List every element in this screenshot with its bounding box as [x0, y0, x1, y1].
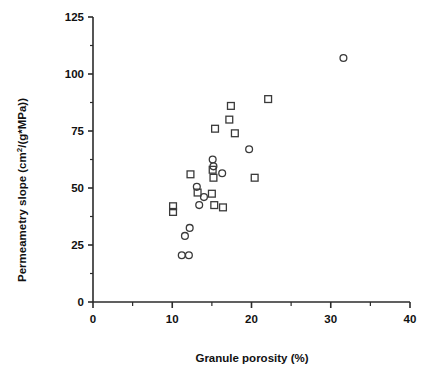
data-point-square [187, 171, 194, 178]
y-axis-title: Permeametry slope (cm2/(g*MPa)) [15, 98, 28, 282]
data-point-square [226, 116, 233, 123]
y-tick-label: 100 [65, 68, 84, 80]
data-point-circle [246, 146, 253, 153]
x-tick-label: 30 [324, 313, 337, 325]
x-axis-title: Granule porosity (%) [195, 352, 308, 364]
data-point-square [212, 125, 219, 132]
y-tick-label: 125 [65, 11, 85, 23]
data-point-circle [219, 170, 226, 177]
x-axis-tick-labels: 010203040 [90, 313, 417, 325]
x-tick-label: 10 [166, 313, 179, 325]
x-axis-ticks [93, 302, 410, 308]
x-tick-label: 0 [90, 313, 96, 325]
x-tick-label: 20 [245, 313, 258, 325]
x-tick-label: 40 [404, 313, 417, 325]
data-point-square [227, 103, 234, 110]
data-point-circle [185, 252, 192, 259]
y-tick-label: 25 [71, 239, 84, 251]
svg-text:Permeametry slope (cm2/(g*MP: Permeametry slope (cm2/(g*MPa)) [15, 98, 28, 282]
data-point-square [231, 130, 238, 137]
y-axis-tick-labels: 0255075100125 [65, 11, 85, 308]
data-point-circle [340, 55, 347, 62]
data-point-square [265, 96, 272, 103]
y-tick-label: 0 [78, 296, 84, 308]
data-point-circle [209, 156, 216, 163]
data-point-square [210, 174, 217, 181]
data-point-circle [178, 252, 185, 259]
y-tick-label: 75 [71, 125, 84, 137]
data-point-square [208, 190, 215, 197]
data-point-square [211, 202, 218, 209]
data-point-square [251, 174, 258, 181]
y-tick-label: 50 [71, 182, 84, 194]
plot-canvas: 0255075100125 010203040 Permeametry slop… [0, 0, 426, 374]
data-point-circle [196, 202, 203, 209]
data-point-circle [186, 225, 193, 232]
data-point-circle [182, 232, 189, 239]
scatter-plot-figure: 0255075100125 010203040 Permeametry slop… [0, 0, 426, 374]
data-markers [170, 55, 347, 259]
data-point-square [220, 204, 227, 211]
